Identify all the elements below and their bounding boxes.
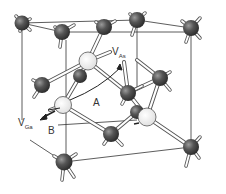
atoms [15, 12, 200, 171]
atom-dark [103, 126, 119, 142]
atom-dark [15, 16, 30, 31]
atom-dark [129, 12, 145, 28]
label-path-a: A [93, 98, 100, 108]
atom-dark [56, 154, 73, 171]
atom-dark [120, 85, 136, 101]
label-v-as: VAs [112, 47, 126, 59]
label-v-ga: VGa [18, 118, 33, 130]
label-path-b: B [48, 126, 55, 136]
v-as-sub: As [119, 53, 126, 59]
atom-dark [152, 70, 168, 86]
v-ga-sub: Ga [25, 124, 33, 130]
atom-dark [73, 69, 87, 83]
atom-dark [96, 19, 112, 35]
v-as-main: V [112, 46, 119, 57]
atom-vacancy [138, 108, 156, 126]
atom-dark [34, 77, 50, 93]
v-ga-main: V [18, 117, 25, 128]
atom-dark [183, 20, 199, 36]
bond-stubs [16, 13, 200, 180]
lattice-diagram: VAs VGa A B [0, 0, 226, 194]
atom-vacancy-as [79, 52, 97, 70]
atom-vacancy-ga [55, 97, 72, 114]
atom-dark [183, 139, 199, 155]
lattice-svg [0, 0, 226, 194]
atom-dark [54, 24, 70, 40]
